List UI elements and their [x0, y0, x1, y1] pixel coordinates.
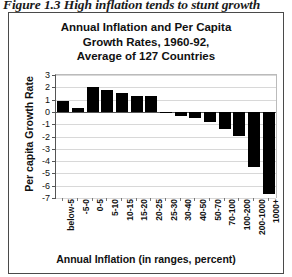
x-tick-label: -5-0: [81, 199, 91, 214]
x-tick-mark: [238, 198, 239, 201]
x-tick-mark: [180, 198, 181, 201]
y-tick-label: -7: [42, 193, 50, 203]
x-tick-label: 0-5: [95, 199, 105, 211]
chart-title-line-2: Growth Rates, 1960-92,: [9, 35, 283, 50]
plot-area: 3210-1-2-3-4-5-6-7: [55, 74, 277, 198]
x-axis-ticks: below-5-5-00-55-1010-1515-2020-2525-3030…: [55, 199, 277, 251]
x-tick-label: 50-70: [213, 199, 223, 221]
x-tick-label: 30-40: [183, 199, 193, 221]
y-tick-label: -3: [42, 144, 50, 154]
x-tick-mark: [150, 198, 151, 201]
x-tick-mark: [194, 198, 195, 201]
bar: [160, 112, 172, 113]
x-tick-mark: [106, 198, 107, 201]
x-tick-mark: [224, 198, 225, 201]
y-tick-label: -6: [42, 181, 50, 191]
bar: [233, 112, 245, 137]
bar: [219, 112, 231, 129]
x-tick-label: 100-200: [242, 199, 252, 230]
bar: [87, 87, 99, 112]
x-tick-label: 5-10: [110, 199, 120, 216]
x-tick-mark: [92, 198, 93, 201]
x-tick-label: below-5: [66, 199, 76, 231]
bar: [189, 112, 201, 118]
x-tick-label: 25-30: [169, 199, 179, 221]
y-tick-label: 2: [45, 82, 50, 92]
x-tick-label: 20-25: [154, 199, 164, 221]
y-tick-label: 1: [45, 95, 50, 105]
x-tick-label: 70-100: [227, 199, 237, 225]
bar: [263, 112, 275, 194]
bar: [131, 96, 143, 112]
bar: [72, 108, 84, 112]
x-tick-mark: [253, 198, 254, 201]
x-tick-mark: [77, 198, 78, 201]
y-tick-label: -2: [42, 132, 50, 142]
chart-title: Annual Inflation and Per Capita Growth R…: [9, 20, 283, 64]
x-tick-label: 200-1000: [257, 199, 267, 235]
y-tick-label: -1: [42, 119, 50, 129]
x-tick-mark: [62, 198, 63, 201]
bar: [175, 112, 187, 116]
bar: [116, 93, 128, 112]
chart-frame: Annual Inflation and Per Capita Growth R…: [8, 12, 284, 274]
x-tick-mark: [165, 198, 166, 201]
x-tick-mark: [209, 198, 210, 201]
x-axis-title: Annual Inflation (in ranges, percent): [9, 253, 283, 265]
y-tick-label: 3: [45, 70, 50, 80]
y-tick-label: 0: [45, 107, 50, 117]
x-tick-label: 15-20: [139, 199, 149, 221]
bar: [145, 96, 157, 112]
bar: [57, 101, 69, 112]
x-tick-mark: [136, 198, 137, 201]
x-tick-mark: [121, 198, 122, 201]
x-tick-label: 1000+: [271, 199, 281, 223]
bars-layer: [56, 75, 276, 198]
bar: [101, 90, 113, 112]
x-tick-mark: [268, 198, 269, 201]
bar: [248, 112, 260, 167]
bar: [204, 112, 216, 122]
x-tick-label: 40-50: [198, 199, 208, 221]
chart-title-line-1: Annual Inflation and Per Capita: [9, 20, 283, 35]
x-tick-label: 10-15: [125, 199, 135, 221]
chart-title-line-3: Average of 127 Countries: [9, 49, 283, 64]
y-tick-label: -5: [42, 168, 50, 178]
y-axis-title: Per capita Growth Rate: [23, 67, 35, 202]
y-tick-label: -4: [42, 156, 50, 166]
